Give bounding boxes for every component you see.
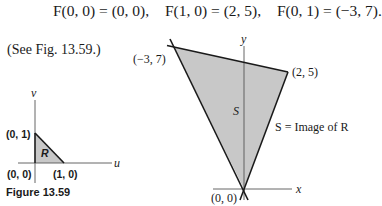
- point-label-2-5: (2, 5): [292, 65, 318, 79]
- y-axis-label: y: [240, 32, 247, 46]
- figure-right-xy-plane: y x S S = Image of R (−3, 7) (2, 5) (0, …: [133, 32, 348, 205]
- region-s-label: S: [233, 104, 239, 118]
- point-label-0-0-uv: (0, 0): [7, 168, 32, 180]
- point-label-1-0: (1, 0): [53, 168, 78, 180]
- figure-caption: Figure 13.59: [6, 186, 70, 198]
- x-axis-label: x: [295, 182, 302, 196]
- u-axis-label: u: [114, 156, 120, 170]
- v-axis-label: v: [31, 86, 37, 100]
- figure-left-uv-plane: v u R (0, 1) (0, 0) (1, 0) Figure 13.59: [6, 86, 120, 198]
- point-label-0-0-xy: (0, 0): [211, 191, 237, 205]
- point-label-neg3-7: (−3, 7): [133, 52, 166, 66]
- point-label-0-1: (0, 1): [6, 128, 31, 140]
- image-annotation: S = Image of R: [275, 120, 348, 134]
- region-r-label: R: [41, 147, 49, 159]
